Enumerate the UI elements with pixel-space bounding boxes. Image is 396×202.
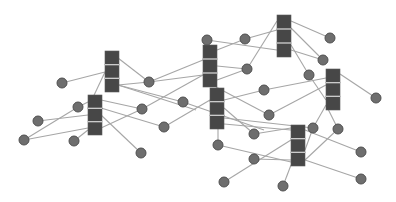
node-circle-n20[interactable] xyxy=(213,140,223,150)
stack-segment xyxy=(291,152,305,166)
edge-line xyxy=(340,74,376,98)
stack-segment xyxy=(210,88,224,102)
node-circle-n18[interactable] xyxy=(304,70,314,80)
node-circle-n17[interactable] xyxy=(318,55,328,65)
node-circle-n6[interactable] xyxy=(69,136,79,146)
node-circle-n7[interactable] xyxy=(136,148,146,158)
node-circle-n25[interactable] xyxy=(356,147,366,157)
server-stack-s5[interactable] xyxy=(277,15,291,57)
node-circle-n8[interactable] xyxy=(137,104,147,114)
node-circle-n2[interactable] xyxy=(144,77,154,87)
server-stack-s2[interactable] xyxy=(88,95,102,135)
server-stack-s4[interactable] xyxy=(210,88,224,129)
stack-segment xyxy=(277,15,291,29)
edge-line xyxy=(62,72,105,83)
edge-line xyxy=(118,58,149,82)
server-stack-s3[interactable] xyxy=(203,45,217,87)
node-circle-n3[interactable] xyxy=(73,102,83,112)
server-stack-s1[interactable] xyxy=(105,51,119,92)
stack-segment xyxy=(88,95,102,108)
node-circle-n9[interactable] xyxy=(159,122,169,132)
node-circle-n21[interactable] xyxy=(249,129,259,139)
node-circle-n5[interactable] xyxy=(19,135,29,145)
stack-segment xyxy=(105,65,119,79)
node-circle-n26[interactable] xyxy=(356,174,366,184)
node-circle-n16[interactable] xyxy=(325,33,335,43)
stack-segment xyxy=(210,115,224,129)
stack-segment xyxy=(203,59,217,73)
server-stack-s6[interactable] xyxy=(326,69,340,110)
node-circle-n24[interactable] xyxy=(333,124,343,134)
node-circle-n15[interactable] xyxy=(264,110,274,120)
edge-line xyxy=(269,85,326,115)
edge-line xyxy=(101,115,141,153)
stack-segment xyxy=(88,108,102,121)
stack-segment xyxy=(210,102,224,116)
node-circle-n10[interactable] xyxy=(178,97,188,107)
diagram-svg xyxy=(0,0,396,202)
edge-line xyxy=(305,160,361,179)
node-circle-n12[interactable] xyxy=(240,34,250,44)
stack-segment xyxy=(291,139,305,153)
stack-segment xyxy=(326,69,340,83)
edge-line xyxy=(305,129,338,160)
node-circle-n14[interactable] xyxy=(259,85,269,95)
node-circle-n4[interactable] xyxy=(33,116,43,126)
stack-segment xyxy=(326,83,340,97)
edge-line xyxy=(291,21,330,38)
stack-segment xyxy=(326,96,340,110)
node-circle-n11[interactable] xyxy=(202,35,212,45)
stack-segment xyxy=(105,51,119,65)
node-circle-n23[interactable] xyxy=(308,123,318,133)
stack-segment xyxy=(88,122,102,135)
edge-line xyxy=(101,100,142,109)
edge-line xyxy=(118,85,183,102)
stack-segment xyxy=(277,29,291,43)
stack-segment xyxy=(105,78,119,92)
node-circle-n1[interactable] xyxy=(57,78,67,88)
edge-line xyxy=(247,21,277,69)
stack-segment xyxy=(291,125,305,139)
edge-line xyxy=(264,78,326,90)
node-circle-n22[interactable] xyxy=(249,154,259,164)
server-stack-s7[interactable] xyxy=(291,125,305,166)
node-circle-n19[interactable] xyxy=(371,93,381,103)
node-circle-n27[interactable] xyxy=(219,177,229,187)
stack-segment xyxy=(277,43,291,57)
network-diagram xyxy=(0,0,396,202)
stack-segment xyxy=(203,73,217,87)
node-circle-n28[interactable] xyxy=(278,181,288,191)
stack-segment xyxy=(203,45,217,59)
node-circle-n13[interactable] xyxy=(242,64,252,74)
